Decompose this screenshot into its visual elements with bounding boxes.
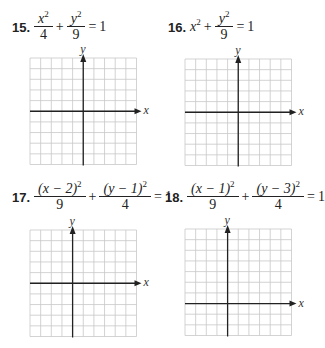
x-axis-label: x: [299, 104, 304, 119]
fraction-y-minus-3-squared-over-4: (y − 3)2 4: [254, 182, 302, 212]
x-axis-label: x: [144, 275, 149, 290]
x-axis-arrow-icon: [290, 109, 297, 115]
coordinate-grid: [183, 215, 310, 339]
graph-16: yx: [183, 45, 310, 173]
problem-number: 17.: [12, 190, 30, 205]
fraction-x-minus-1-squared-over-9: (x − 1)2 9: [189, 182, 237, 212]
fraction-x-squared-over-4: x2 4: [36, 12, 51, 42]
fraction-y-minus-1-squared-over-4: (y − 1)2 4: [101, 182, 149, 212]
coordinate-grid: [28, 44, 155, 168]
coordinate-grid: [28, 216, 155, 340]
problem-number: 16.: [168, 20, 186, 35]
x-axis-label: x: [299, 296, 304, 311]
y-axis-label: y: [225, 213, 230, 228]
problem-18-equation: 18. (x − 1)2 9 + (y − 3)2 4 = 1: [165, 182, 325, 212]
y-axis-label: y: [70, 214, 75, 229]
fraction-y-squared-over-9: y2 9: [69, 12, 84, 42]
fraction-y-squared-over-9: y2 9: [217, 12, 232, 42]
fraction-x-minus-2-squared-over-9: (x − 2)2 9: [36, 182, 84, 212]
problem-number: 15.: [12, 20, 30, 35]
graph-15: yx: [28, 44, 155, 172]
graph-18: yx: [183, 215, 310, 343]
x-axis-arrow-icon: [290, 301, 297, 307]
x-axis-arrow-icon: [135, 280, 142, 286]
problem-number: 18.: [165, 190, 183, 205]
y-axis-label: y: [235, 43, 240, 58]
problem-17-equation: 17. (x − 2)2 9 + (y − 1)2 4 = 1: [12, 182, 172, 212]
problem-15-equation: 15. x2 4 + y2 9 = 1: [12, 12, 106, 42]
x-axis-label: x: [144, 103, 149, 118]
x-axis-arrow-icon: [135, 108, 142, 114]
y-axis-label: y: [80, 42, 85, 57]
problem-16-equation: 16. x2 + y2 9 = 1: [168, 12, 254, 42]
coordinate-grid: [183, 45, 310, 169]
graph-17: yx: [28, 216, 155, 344]
